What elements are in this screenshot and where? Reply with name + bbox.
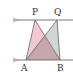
label-b: B [57,63,64,73]
geometry-diagram: P Q A B [0,0,73,73]
label-a: A [20,63,28,73]
label-q: Q [54,7,61,17]
label-p: P [32,7,38,17]
